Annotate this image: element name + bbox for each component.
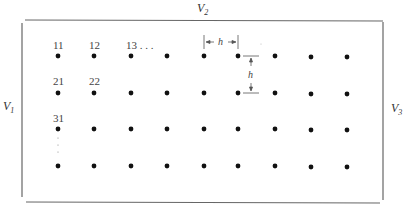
vertical-spacing-label: h (248, 69, 253, 80)
grid-node (273, 127, 278, 132)
grid-diagram: V2 V1 V3 11 12 13 . . . 21 22 31 h h (0, 0, 413, 210)
grid-node (56, 54, 61, 59)
grid-node (273, 54, 278, 59)
vertical-ellipsis (57, 137, 58, 152)
boundary-label-v3: V3 (391, 101, 402, 117)
grid-node (56, 164, 61, 169)
top-boundary (25, 20, 383, 21)
grid-node (92, 54, 97, 59)
grid-node (129, 54, 134, 59)
grid-node (309, 55, 314, 60)
horizontal-spacing-label: h (218, 36, 223, 47)
node-label-11: 11 (53, 39, 64, 51)
grid-node (129, 91, 134, 96)
grid-node (236, 91, 241, 96)
node-label-21: 21 (53, 75, 64, 87)
grid-node (309, 128, 314, 133)
grid-node (236, 54, 241, 59)
grid-node (165, 91, 170, 96)
grid-node (56, 91, 61, 96)
grid-node (92, 164, 97, 169)
grid-node (56, 127, 61, 132)
grid-node (309, 165, 314, 170)
bottom-boundary (26, 202, 380, 203)
grid-node (345, 165, 350, 170)
grid-node (345, 55, 350, 60)
boundary-label-v1: V1 (3, 99, 14, 115)
grid-node (202, 54, 207, 59)
grid-node (202, 164, 207, 169)
grid-node (92, 127, 97, 132)
grid-node (165, 164, 170, 169)
grid-node (273, 91, 278, 96)
grid-node (92, 91, 97, 96)
node-label-22: 22 (89, 75, 100, 87)
boundary-label-v2: V2 (197, 1, 208, 17)
grid-node (202, 127, 207, 132)
node-label-13: 13 . . . (126, 39, 154, 51)
grid-node (165, 54, 170, 59)
grid-node (129, 164, 134, 169)
grid-node (202, 91, 207, 96)
grid-node (345, 92, 350, 97)
grid-node (309, 92, 314, 97)
node-label-12: 12 (89, 39, 100, 51)
grid-nodes (56, 54, 350, 170)
stray-mark (261, 44, 262, 45)
grid-node (236, 127, 241, 132)
grid-node (273, 164, 278, 169)
grid-node (345, 128, 350, 133)
grid-node (129, 127, 134, 132)
grid-node (165, 127, 170, 132)
grid-node (236, 164, 241, 169)
node-label-31: 31 (53, 112, 64, 124)
